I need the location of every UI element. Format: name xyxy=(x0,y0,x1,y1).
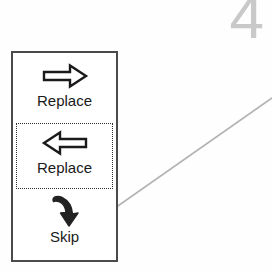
toolbar-button-replace-right[interactable]: Replace xyxy=(13,57,116,121)
arrow-curved-down-solid-icon xyxy=(47,197,83,227)
arrow-left-outline-icon xyxy=(40,128,90,158)
arrow-right-outline-icon xyxy=(40,61,90,91)
toolbar-button-label: Replace xyxy=(37,93,92,110)
figure-screenshot: 4 Replace Repl xyxy=(0,0,272,271)
toolbar-button-list: Replace Replace Skip xyxy=(13,53,116,260)
toolbar-button-label: Skip xyxy=(50,229,79,246)
toolbar-button-replace-left[interactable]: Replace xyxy=(16,123,113,189)
figure-number-label: 4 xyxy=(230,0,264,48)
toolbar-button-skip[interactable]: Skip xyxy=(13,193,116,257)
toolbar-button-label: Replace xyxy=(37,160,92,177)
toolbar-panel: Replace Replace Skip xyxy=(11,51,118,262)
